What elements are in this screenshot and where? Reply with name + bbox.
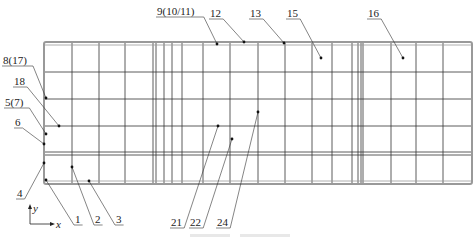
x-axis-label: x: [55, 218, 61, 230]
measurement-point-icon: [320, 57, 323, 60]
callout-label: 9(10/11): [157, 5, 195, 18]
measurement-point-icon: [283, 42, 286, 45]
measurement-point-icon: [45, 97, 48, 100]
callout-label: 13: [250, 7, 262, 19]
callout-22: 22: [189, 138, 233, 228]
leader-line: [223, 19, 244, 42]
measurement-point-icon: [45, 133, 48, 136]
leader-line: [23, 128, 44, 144]
callout-label: 12: [210, 7, 221, 19]
leader-line: [263, 19, 284, 43]
callout-label: 2: [95, 213, 101, 225]
leader-line: [381, 19, 403, 58]
callout-label: 16: [368, 7, 380, 19]
callout-15: 15: [286, 7, 322, 59]
callout-16: 16: [367, 7, 404, 59]
callout-12: 12: [209, 7, 245, 43]
leader-line: [204, 17, 217, 44]
figure-caption-placeholder: [190, 234, 290, 237]
y-axis-label: y: [32, 202, 38, 214]
measurement-point-icon: [45, 179, 48, 182]
callout-label: 4: [17, 187, 23, 199]
callout-3: 3: [88, 180, 124, 225]
callout-label: 18: [14, 75, 26, 87]
leader-line: [300, 19, 321, 58]
x-arrow-icon: [50, 222, 55, 226]
callout-5-7-: 5(7): [4, 96, 47, 135]
callout-label: 21: [171, 216, 182, 228]
callout-label: 6: [15, 116, 21, 128]
measurement-point-icon: [231, 138, 234, 141]
measurement-point-icon: [216, 43, 219, 46]
leader-line: [25, 163, 44, 199]
leader-line: [230, 112, 258, 228]
measurement-point-icon: [43, 162, 46, 165]
callout-6: 6: [14, 116, 45, 145]
measurement-point-icon: [217, 125, 220, 128]
callout-label: 22: [190, 216, 201, 228]
measurement-point-icon: [71, 166, 74, 169]
y-arrow-icon: [28, 204, 32, 209]
leader-line: [184, 126, 218, 228]
callout-21: 21: [170, 125, 219, 228]
callout-4: 4: [16, 162, 45, 199]
mesh-diagram: 12345(7)68(17)189(10/11)12131516212224 y…: [0, 0, 474, 242]
callout-1: 1: [45, 179, 83, 225]
callout-13: 13: [249, 7, 285, 44]
measurement-point-icon: [88, 180, 91, 183]
callout-label: 5(7): [5, 96, 24, 109]
callout-label: 8(17): [3, 54, 27, 67]
measurement-point-icon: [58, 125, 61, 128]
measurement-point-icon: [257, 111, 260, 114]
callout-label: 3: [116, 213, 122, 225]
callout-label: 24: [217, 216, 229, 228]
measurement-point-icon: [43, 143, 46, 146]
callout-label: 15: [287, 7, 299, 19]
coordinate-axes: y x: [28, 202, 61, 230]
measurement-point-icon: [243, 41, 246, 44]
leader-line: [89, 181, 115, 225]
measurement-point-icon: [402, 57, 405, 60]
callout-label: 1: [75, 213, 81, 225]
